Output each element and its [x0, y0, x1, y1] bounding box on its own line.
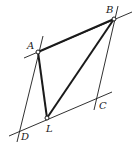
label-C: C: [99, 101, 107, 111]
point-L-marker: [45, 116, 49, 120]
label-A: A: [27, 41, 34, 51]
segment-AL: [38, 52, 47, 118]
label-B: B: [106, 5, 113, 15]
point-B-marker: [112, 17, 116, 21]
label-D: D: [21, 132, 29, 142]
diagram-canvas: A B C D L: [0, 0, 137, 148]
geometry-figure: [0, 0, 137, 148]
point-A-marker: [36, 50, 40, 54]
label-L: L: [46, 124, 53, 134]
